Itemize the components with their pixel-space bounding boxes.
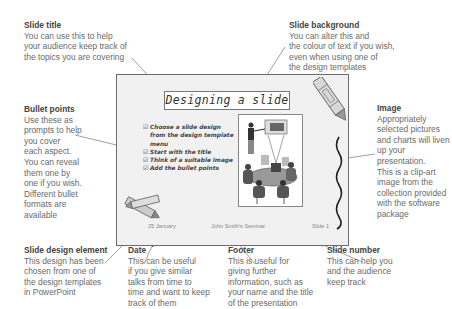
bullet-text: Think of a suitable image — [150, 156, 233, 164]
slide-preview: Designing a slide ☑ Choose a slide desig… — [116, 74, 349, 246]
annotation-body: This can be useful if you give similar t… — [128, 256, 210, 309]
annotation-body: You can use this to help your audience k… — [24, 31, 127, 63]
clipart-meeting-image — [238, 114, 303, 207]
bullet-item: ☑ Think of a suitable image — [143, 156, 238, 164]
bullet-text: Choose a slide design from the design te… — [150, 123, 238, 148]
annotation-body: You can alter this and the colour of tex… — [289, 31, 395, 73]
crayon-squiggle-design-icon — [313, 77, 347, 245]
annotation-body: This is useful for giving further inform… — [228, 256, 313, 309]
annotation-slide-number: Slide number This can help you and the a… — [327, 245, 393, 287]
annotation-slide-background: Slide background You can alter this and … — [289, 20, 395, 73]
bullet-text: Start with the title — [150, 148, 211, 156]
annotation-slide-design-element: Slide design element This design has bee… — [24, 245, 107, 298]
annotation-heading: Image — [377, 103, 452, 114]
annotation-body: Appropriately selected pictures and char… — [377, 114, 452, 220]
annotation-heading: Bullet points — [24, 104, 82, 115]
slide-footer: John Smith's Seminar — [211, 223, 265, 229]
annotation-footer: Footer This is useful for giving further… — [228, 245, 313, 309]
annotation-bullet-points: Bullet points Use these as prompts to he… — [24, 104, 82, 221]
bullet-item: ☑ Choose a slide design from the design … — [143, 123, 238, 148]
bullet-item: ☑ Add the bullet points — [143, 164, 238, 172]
checkbox-bullet-icon: ☑ — [143, 156, 150, 164]
annotation-heading: Slide design element — [24, 245, 107, 256]
annotation-body: This can help you and the audience keep … — [327, 256, 393, 288]
bullet-text: Add the bullet points — [150, 164, 219, 172]
meeting-clipart-icon — [239, 115, 302, 206]
annotation-body: Use these as prompts to help you cover e… — [24, 115, 82, 221]
slide-number: Slide 1 — [312, 223, 329, 229]
checkbox-bullet-icon: ☑ — [143, 123, 150, 148]
bullet-list: ☑ Choose a slide design from the design … — [143, 123, 238, 173]
annotation-heading: Date — [128, 245, 210, 256]
annotation-heading: Slide number — [327, 245, 393, 256]
annotation-date: Date This can be useful if you give simi… — [128, 245, 210, 309]
annotation-body: This design has been chosen from one of … — [24, 256, 107, 298]
annotation-slide-title: Slide title You can use this to help you… — [24, 20, 127, 62]
annotation-image: Image Appropriately selected pictures an… — [377, 103, 452, 220]
annotation-heading: Slide background — [289, 20, 395, 31]
slide-date: 25 January — [148, 223, 176, 229]
crayons-design-element-icon — [121, 193, 165, 227]
slide-title: Designing a slide — [164, 91, 290, 110]
bullet-item: ☑ Start with the title — [143, 148, 238, 156]
checkbox-bullet-icon: ☑ — [143, 164, 150, 172]
annotation-heading: Slide title — [24, 20, 127, 31]
checkbox-bullet-icon: ☑ — [143, 148, 150, 156]
annotation-heading: Footer — [228, 245, 313, 256]
